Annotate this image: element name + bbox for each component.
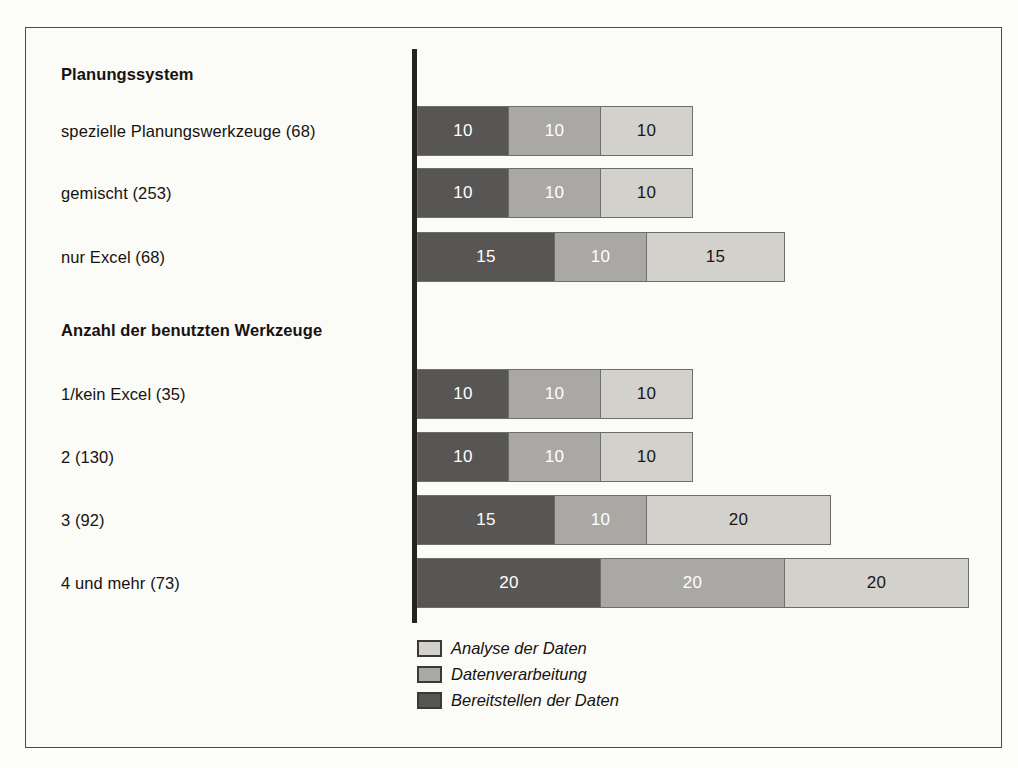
legend-swatch-icon <box>417 640 442 657</box>
chart-frame: Planungssystem spezielle Planungswerkzeu… <box>25 27 1002 748</box>
legend-item-datenverarbeitung[interactable]: Datenverarbeitung <box>417 662 619 686</box>
bar-segment-bereitstellen[interactable]: 15 <box>417 232 555 282</box>
bar-segment-analyse[interactable]: 10 <box>601 369 693 419</box>
bar-segment-datenverarbeitung[interactable]: 20 <box>601 558 785 608</box>
stacked-bar[interactable]: 20 20 20 <box>417 558 969 608</box>
chart-row-4-und-mehr: 4 und mehr (73) 20 20 20 <box>26 558 1001 608</box>
figure-root: Planungssystem spezielle Planungswerkzeu… <box>0 0 1018 768</box>
bar-segment-analyse[interactable]: 10 <box>601 106 693 156</box>
bar-segment-analyse[interactable]: 20 <box>785 558 969 608</box>
chart-row-heading-anzahl-werkzeuge: Anzahl der benutzten Werkzeuge <box>26 305 1001 355</box>
bar-segment-bereitstellen[interactable]: 15 <box>417 495 555 545</box>
row-label: Planungssystem <box>61 65 194 83</box>
legend-swatch-icon <box>417 692 442 709</box>
bar-segment-datenverarbeitung[interactable]: 10 <box>509 106 601 156</box>
legend-item-bereitstellen[interactable]: Bereitstellen der Daten <box>417 688 619 712</box>
plot-area: Planungssystem spezielle Planungswerkzeu… <box>26 28 1001 747</box>
row-label: 4 und mehr (73) <box>61 574 180 592</box>
bar-segment-datenverarbeitung[interactable]: 10 <box>509 432 601 482</box>
stacked-bar[interactable]: 15 10 20 <box>417 495 831 545</box>
stacked-bar[interactable]: 10 10 10 <box>417 432 693 482</box>
bar-segment-datenverarbeitung[interactable]: 10 <box>555 232 647 282</box>
chart-row-nur-excel: nur Excel (68) 15 10 15 <box>26 232 1001 282</box>
stacked-bar[interactable]: 10 10 10 <box>417 106 693 156</box>
legend-swatch-icon <box>417 666 442 683</box>
chart-row-heading-planungssystem: Planungssystem <box>26 49 1001 99</box>
stacked-bar[interactable]: 15 10 15 <box>417 232 785 282</box>
chart-row-3: 3 (92) 15 10 20 <box>26 495 1001 545</box>
row-label: gemischt (253) <box>61 184 172 202</box>
bar-segment-datenverarbeitung[interactable]: 10 <box>555 495 647 545</box>
chart-legend: Analyse der Daten Datenverarbeitung Bere… <box>417 636 619 714</box>
bar-segment-bereitstellen[interactable]: 10 <box>417 432 509 482</box>
chart-row-spezielle-planungswerkzeuge: spezielle Planungswerkzeuge (68) 10 10 1… <box>26 106 1001 156</box>
legend-label: Analyse der Daten <box>451 639 587 658</box>
bar-segment-bereitstellen[interactable]: 10 <box>417 369 509 419</box>
bar-segment-bereitstellen[interactable]: 10 <box>417 168 509 218</box>
chart-row-2: 2 (130) 10 10 10 <box>26 432 1001 482</box>
bar-segment-datenverarbeitung[interactable]: 10 <box>509 369 601 419</box>
row-label: 1/kein Excel (35) <box>61 385 186 403</box>
legend-label: Datenverarbeitung <box>451 665 587 684</box>
bar-segment-analyse[interactable]: 20 <box>647 495 831 545</box>
legend-item-analyse[interactable]: Analyse der Daten <box>417 636 619 660</box>
bar-segment-datenverarbeitung[interactable]: 10 <box>509 168 601 218</box>
chart-row-1-kein-excel: 1/kein Excel (35) 10 10 10 <box>26 369 1001 419</box>
bar-segment-bereitstellen[interactable]: 10 <box>417 106 509 156</box>
bar-segment-analyse[interactable]: 10 <box>601 168 693 218</box>
row-label: spezielle Planungswerkzeuge (68) <box>61 122 316 140</box>
chart-row-gemischt: gemischt (253) 10 10 10 <box>26 168 1001 218</box>
bar-segment-analyse[interactable]: 10 <box>601 432 693 482</box>
row-label: 3 (92) <box>61 511 105 529</box>
row-label: Anzahl der benutzten Werkzeuge <box>61 321 322 339</box>
stacked-bar[interactable]: 10 10 10 <box>417 168 693 218</box>
stacked-bar[interactable]: 10 10 10 <box>417 369 693 419</box>
bar-segment-analyse[interactable]: 15 <box>647 232 785 282</box>
row-label: 2 (130) <box>61 448 114 466</box>
bar-segment-bereitstellen[interactable]: 20 <box>417 558 601 608</box>
row-label: nur Excel (68) <box>61 248 165 266</box>
legend-label: Bereitstellen der Daten <box>451 691 619 710</box>
